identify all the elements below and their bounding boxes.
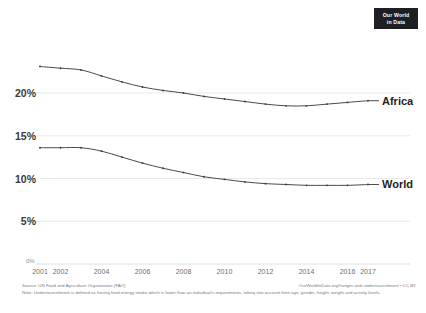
series-label-world[interactable]: World: [382, 178, 413, 190]
y-axis-label-0%: 0%: [26, 258, 35, 264]
data-point-africa-2011[interactable]: [244, 101, 246, 103]
data-point-world-2008[interactable]: [183, 172, 185, 174]
data-point-world-2010[interactable]: [224, 178, 226, 180]
data-point-africa-2006[interactable]: [142, 86, 144, 88]
x-axis-label-2001: 2001: [32, 268, 48, 275]
data-point-africa-2016[interactable]: [347, 101, 349, 103]
data-point-africa-2003[interactable]: [80, 69, 82, 71]
footer-top-row: Source: UN Food and Agriculture Organiza…: [22, 283, 416, 289]
data-point-world-2016[interactable]: [347, 184, 349, 186]
y-axis-label-20%: 20%: [15, 87, 37, 99]
plot-area: 0%5%10%15%20% 20012002200420062008201020…: [0, 0, 426, 313]
data-point-world-2009[interactable]: [203, 176, 205, 178]
data-point-africa-2008[interactable]: [183, 92, 185, 94]
data-point-africa-2005[interactable]: [121, 81, 123, 83]
series-label-africa[interactable]: Africa: [382, 95, 414, 107]
x-axis-label-2014: 2014: [299, 268, 315, 275]
x-axis-label-2016: 2016: [340, 268, 356, 275]
data-point-africa-2001[interactable]: [39, 66, 41, 68]
y-axis-ticks-group: 0%5%10%15%20%: [15, 87, 37, 264]
chart-container: Our World in Data 0%5%10%15%20% 20012002…: [0, 0, 426, 313]
line-chart-svg: 0%5%10%15%20% 20012002200420062008201020…: [0, 0, 426, 313]
data-point-africa-2012[interactable]: [265, 103, 267, 105]
y-axis-label-15%: 15%: [15, 130, 37, 142]
data-point-africa-2004[interactable]: [101, 75, 103, 77]
x-axis-label-2002: 2002: [53, 268, 69, 275]
x-axis-label-2004: 2004: [94, 268, 110, 275]
data-point-world-2013[interactable]: [285, 184, 287, 186]
footer-attribution-link[interactable]: OurWorldInData.org/hunger-and-undernouri…: [299, 283, 416, 289]
x-axis-label-2012: 2012: [258, 268, 274, 275]
data-point-world-2011[interactable]: [244, 181, 246, 183]
data-point-africa-2009[interactable]: [203, 95, 205, 97]
data-point-world-2015[interactable]: [326, 184, 328, 186]
data-point-africa-2007[interactable]: [162, 89, 164, 91]
data-point-africa-2013[interactable]: [285, 105, 287, 107]
footer-source-text: Source: UN Food and Agriculture Organiza…: [22, 283, 125, 289]
series-group: [39, 66, 369, 187]
chart-footer: Source: UN Food and Agriculture Organiza…: [22, 283, 416, 296]
data-point-world-2002[interactable]: [60, 147, 62, 149]
x-axis-label-2006: 2006: [135, 268, 151, 275]
data-point-africa-2002[interactable]: [60, 67, 62, 69]
x-axis-label-2017: 2017: [360, 268, 376, 275]
data-point-world-2014[interactable]: [306, 184, 308, 186]
data-point-world-2007[interactable]: [162, 167, 164, 169]
data-point-world-2001[interactable]: [39, 147, 41, 149]
data-point-world-2006[interactable]: [142, 162, 144, 164]
data-point-africa-2015[interactable]: [326, 103, 328, 105]
gridlines-group: [36, 93, 410, 264]
data-point-world-2012[interactable]: [265, 183, 267, 185]
data-point-world-2004[interactable]: [101, 150, 103, 152]
x-axis-ticks-group: 2001200220042006200820102012201420162017: [32, 268, 376, 275]
footer-note-text: Note: Undernourishment is defined as hav…: [22, 290, 416, 296]
series-labels-group: AfricaWorld: [368, 95, 414, 191]
data-point-world-2005[interactable]: [121, 156, 123, 158]
x-axis-label-2008: 2008: [176, 268, 192, 275]
series-line-world[interactable]: [40, 147, 368, 185]
y-axis-label-10%: 10%: [15, 173, 37, 185]
x-axis-label-2010: 2010: [217, 268, 233, 275]
data-point-africa-2014[interactable]: [306, 105, 308, 107]
data-point-africa-2010[interactable]: [224, 98, 226, 100]
y-axis-label-5%: 5%: [21, 215, 37, 227]
series-line-africa[interactable]: [40, 66, 368, 106]
data-point-world-2003[interactable]: [80, 147, 82, 149]
